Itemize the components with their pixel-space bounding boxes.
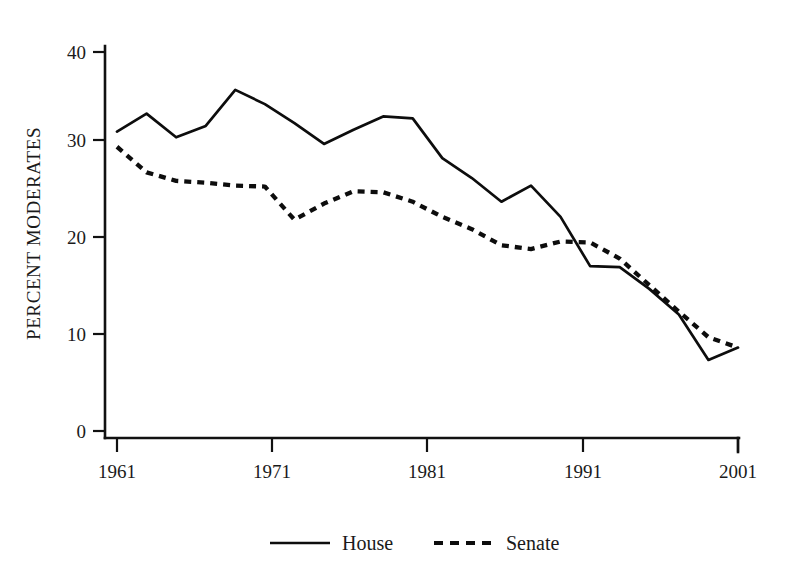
y-tick-label-10: 10 xyxy=(67,324,86,345)
y-tick-label-30: 30 xyxy=(67,130,86,151)
chart-container: 40 30 20 10 0 1961 1971 1981 1991 2001 P… xyxy=(0,0,796,588)
x-tick-label-1961: 1961 xyxy=(98,461,136,482)
x-tick-label-1971: 1971 xyxy=(253,461,291,482)
chart-background xyxy=(0,0,796,588)
y-tick-label-40: 40 xyxy=(67,42,86,63)
y-axis-title: PERCENT MODERATES xyxy=(23,127,44,340)
x-tick-label-1991: 1991 xyxy=(564,461,602,482)
legend-label-senate: Senate xyxy=(506,532,559,554)
y-tick-label-20: 20 xyxy=(67,227,86,248)
y-tick-label-0: 0 xyxy=(77,421,87,442)
percent-moderates-line-chart: 40 30 20 10 0 1961 1971 1981 1991 2001 P… xyxy=(0,0,796,588)
legend-label-house: House xyxy=(342,532,393,554)
x-tick-label-1981: 1981 xyxy=(408,461,446,482)
x-tick-label-2001: 2001 xyxy=(719,461,757,482)
